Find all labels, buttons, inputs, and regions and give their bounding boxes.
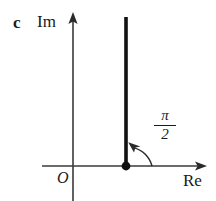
- angle-numerator: π: [152, 108, 178, 125]
- real-axis-label: Re: [183, 172, 202, 189]
- panel-label: c: [13, 14, 21, 31]
- angle-annotation: π 2: [152, 108, 178, 143]
- angle-arc: [134, 148, 152, 166]
- complex-plane-diagram: c Im Re O π 2: [0, 0, 216, 201]
- angle-arc-arrowhead: [128, 142, 140, 152]
- branch-point-marker: [122, 162, 131, 171]
- angle-denominator: 2: [152, 126, 178, 143]
- origin-label: O: [57, 170, 69, 186]
- imaginary-axis-label: Im: [37, 13, 56, 30]
